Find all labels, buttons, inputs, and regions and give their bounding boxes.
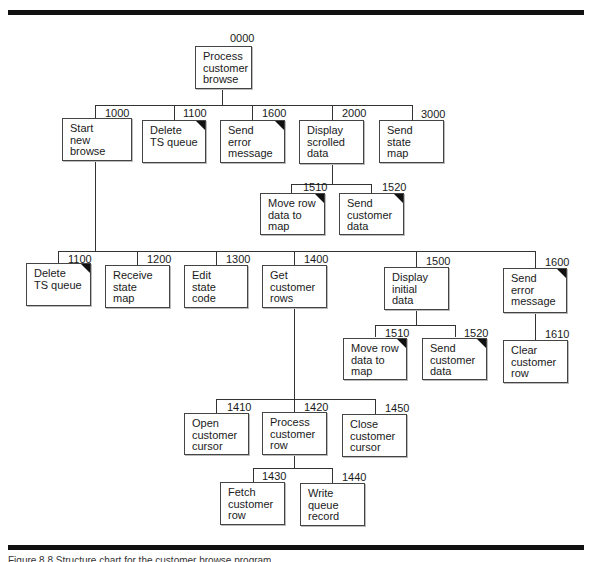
node-number: 0000 xyxy=(230,33,254,44)
connector xyxy=(95,105,413,106)
node-number: 1600 xyxy=(262,108,286,119)
node-number: 1500 xyxy=(426,256,450,267)
node-start-new-browse: Start new browse xyxy=(62,118,132,161)
connector xyxy=(253,468,333,469)
connector xyxy=(294,251,295,265)
node-number: 1400 xyxy=(304,254,328,265)
node-clear-customer-row: Clear customer row xyxy=(503,340,568,383)
node-number: 1200 xyxy=(147,254,171,265)
node-label: Send error message xyxy=(511,273,556,308)
connector xyxy=(95,105,96,118)
node-number: 3000 xyxy=(421,109,445,120)
node-receive-state-map: Receive state map xyxy=(105,265,170,308)
node-delete-ts-queue: Delete TS queue xyxy=(26,263,91,306)
node-label: Get customer rows xyxy=(270,270,315,305)
node-label: Process customer row xyxy=(270,417,315,452)
connector xyxy=(294,455,295,468)
common-module-corner-icon xyxy=(315,194,324,203)
node-label: Move row data to map xyxy=(268,198,316,233)
connector xyxy=(332,105,333,120)
node-fetch-customer-row: Fetch customer row xyxy=(220,482,285,525)
connector xyxy=(332,164,333,184)
connector xyxy=(253,468,254,482)
node-send-state-map: Send state map xyxy=(379,120,444,163)
node-move-row-data-to-map: Move row data to map xyxy=(260,193,325,235)
connector xyxy=(416,309,417,325)
node-send-customer-data: Send customer data xyxy=(422,338,487,380)
node-label: Send customer data xyxy=(347,198,392,233)
node-label: Receive state map xyxy=(113,270,153,305)
node-label: Delete TS queue xyxy=(150,125,198,148)
node-label: Start new browse xyxy=(70,123,105,158)
node-display-scrolled-data: Display scrolled data xyxy=(299,120,364,164)
node-number: 1100 xyxy=(183,108,207,119)
node-write-queue-record: Write queue record xyxy=(300,483,365,526)
connector xyxy=(216,251,217,265)
figure-caption: Figure 8.8 Structure chart for the custo… xyxy=(8,555,271,562)
node-label: Display scrolled data xyxy=(307,125,345,160)
connector xyxy=(535,313,536,340)
node-number: 1450 xyxy=(385,403,409,414)
connector xyxy=(294,308,295,399)
node-send-error-message: Send error message xyxy=(503,268,567,313)
node-edit-state-code: Edit state code xyxy=(184,265,248,308)
node-open-customer-cursor: Open customer cursor xyxy=(184,413,249,455)
connector xyxy=(416,251,417,267)
node-label: Fetch customer row xyxy=(228,487,273,522)
node-label: Open customer cursor xyxy=(192,418,237,453)
connector xyxy=(371,184,372,193)
node-send-customer-data: Send customer data xyxy=(339,193,404,235)
connector xyxy=(222,88,223,105)
node-number: 2000 xyxy=(342,108,366,119)
connector xyxy=(174,105,175,120)
common-module-corner-icon xyxy=(196,121,205,130)
connector xyxy=(375,325,456,326)
connector xyxy=(216,399,217,413)
top-rule xyxy=(8,10,584,15)
node-label: Delete TS queue xyxy=(34,268,82,291)
node-number: 1520 xyxy=(382,182,406,193)
common-module-corner-icon xyxy=(275,121,284,130)
bottom-rule xyxy=(8,545,584,550)
node-label: Display initial data xyxy=(392,272,428,307)
node-process-customer-row: Process customer row xyxy=(262,412,327,455)
connector xyxy=(216,399,376,400)
node-number: 1600 xyxy=(545,257,569,268)
node-label: Send customer data xyxy=(430,343,475,378)
connector xyxy=(291,184,292,193)
connector xyxy=(137,251,138,265)
node-send-error-message: Send error message xyxy=(220,120,285,163)
node-number: 1510 xyxy=(303,182,327,193)
common-module-corner-icon xyxy=(397,339,406,348)
common-module-corner-icon xyxy=(477,339,486,348)
node-move-row-data-to-map: Move row data to map xyxy=(343,338,407,380)
node-number: 1410 xyxy=(227,402,251,413)
node-label: Move row data to map xyxy=(351,343,399,378)
common-module-corner-icon xyxy=(557,269,566,278)
connector xyxy=(535,251,536,268)
connector xyxy=(58,251,59,263)
connector xyxy=(294,399,295,412)
node-label: Send state map xyxy=(387,125,413,160)
node-label: Send error message xyxy=(228,125,273,160)
node-label: Edit state code xyxy=(192,270,216,305)
connector xyxy=(252,105,253,120)
node-label: Process customer browse xyxy=(203,51,248,86)
node-get-customer-rows: Get customer rows xyxy=(262,265,327,308)
node-label: Close customer cursor xyxy=(350,419,395,454)
connector xyxy=(455,325,456,337)
node-label: Clear customer row xyxy=(511,345,556,380)
node-display-initial-data: Display initial data xyxy=(384,267,449,310)
connector xyxy=(95,160,96,251)
connector xyxy=(375,325,376,337)
connector xyxy=(332,468,333,483)
node-number: 1430 xyxy=(262,471,286,482)
common-module-corner-icon xyxy=(394,194,403,203)
node-label: Write queue record xyxy=(308,488,339,523)
connector xyxy=(375,399,376,414)
node-delete-ts-queue: Delete TS queue xyxy=(142,120,206,163)
node-process-customer-browse: Process customer browse xyxy=(195,46,252,89)
node-number: 1440 xyxy=(342,472,366,483)
node-number: 1300 xyxy=(226,254,250,265)
connector xyxy=(412,105,413,120)
